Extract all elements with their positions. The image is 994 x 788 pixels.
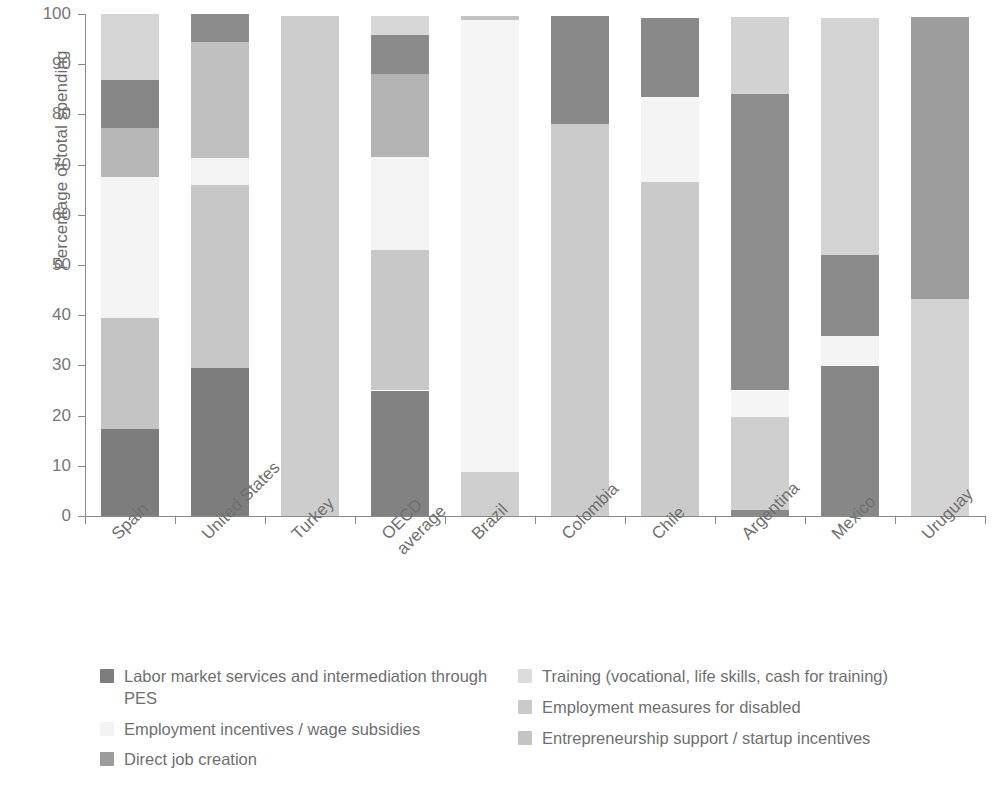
x-tick-2 — [265, 516, 266, 524]
legend-column-right: Training (vocational, life skills, cash … — [518, 666, 988, 758]
y-tick-0 — [78, 516, 85, 517]
bar-segment — [101, 128, 159, 177]
bar-mexico — [821, 14, 879, 516]
bar-colombia — [551, 14, 609, 516]
legend-item[interactable]: Entrepreneurship support / startup incen… — [518, 728, 988, 750]
legend-label: Direct job creation — [124, 749, 257, 771]
y-tick-20 — [78, 416, 85, 417]
y-tick-label-0: 0 — [25, 506, 71, 526]
y-tick-30 — [78, 365, 85, 366]
bar-segment — [731, 391, 789, 417]
bar-segment — [821, 18, 879, 255]
y-tick-label-30: 30 — [25, 355, 71, 375]
y-tick-label-50: 50 — [25, 255, 71, 275]
legend-item[interactable]: Training (vocational, life skills, cash … — [518, 666, 988, 688]
bar-segment — [101, 80, 159, 128]
bar-segment — [101, 318, 159, 429]
bar-segment — [641, 18, 699, 97]
bar-turkey — [281, 14, 339, 516]
y-tick-label-80: 80 — [25, 104, 71, 124]
x-tick-1 — [175, 516, 176, 524]
legend-item[interactable]: Labor market services and intermediation… — [100, 666, 520, 710]
x-tick-7 — [715, 516, 716, 524]
x-tick-6 — [625, 516, 626, 524]
bar-segment — [281, 16, 339, 516]
y-tick-label-40: 40 — [25, 305, 71, 325]
legend-label: Training (vocational, life skills, cash … — [542, 666, 888, 688]
y-tick-100 — [78, 14, 85, 15]
legend-label: Employment measures for disabled — [542, 697, 801, 719]
legend-label: Labor market services and intermediation… — [124, 666, 520, 710]
y-tick-40 — [78, 315, 85, 316]
bar-segment — [191, 185, 249, 368]
bar-segment — [731, 94, 789, 390]
legend-swatch-icon — [518, 669, 532, 683]
legend-label: Employment incentives / wage subsidies — [124, 719, 420, 741]
y-tick-10 — [78, 466, 85, 467]
chart-figure: Percentage of total spending 01020304050… — [0, 0, 994, 788]
bar-chile — [641, 14, 699, 516]
y-tick-70 — [78, 165, 85, 166]
bar-segment — [371, 157, 429, 250]
bar-segment — [551, 16, 609, 125]
bar-argentina — [731, 14, 789, 516]
legend-column-left: Labor market services and intermediation… — [100, 666, 520, 780]
bar-oecd-average — [371, 14, 429, 516]
bar-segment — [821, 336, 879, 366]
y-tick-80 — [78, 114, 85, 115]
legend-swatch-icon — [100, 669, 114, 683]
x-tick-0 — [85, 516, 86, 524]
x-tick-3 — [355, 516, 356, 524]
legend-item[interactable]: Employment incentives / wage subsidies — [100, 719, 520, 741]
legend-swatch-icon — [518, 700, 532, 714]
bar-segment — [641, 182, 699, 516]
legend-label: Entrepreneurship support / startup incen… — [542, 728, 870, 750]
bar-segment — [371, 74, 429, 157]
bar-segment — [371, 35, 429, 74]
y-tick-label-70: 70 — [25, 155, 71, 175]
y-axis-line — [85, 14, 86, 516]
bar-brazil — [461, 14, 519, 516]
legend-swatch-icon — [518, 731, 532, 745]
bar-segment — [191, 14, 249, 42]
y-tick-label-10: 10 — [25, 456, 71, 476]
legend-item[interactable]: Employment measures for disabled — [518, 697, 988, 719]
legend-swatch-icon — [100, 752, 114, 766]
bar-segment — [101, 14, 159, 80]
bar-united-states — [191, 14, 249, 516]
y-tick-60 — [78, 215, 85, 216]
bar-segment — [191, 42, 249, 158]
bar-spain — [101, 14, 159, 516]
y-tick-label-60: 60 — [25, 205, 71, 225]
legend-item[interactable]: Direct job creation — [100, 749, 520, 771]
legend-swatch-icon — [100, 722, 114, 736]
bar-segment — [911, 299, 969, 516]
bar-segment — [731, 17, 789, 94]
bar-segment — [911, 17, 969, 299]
bar-segment — [191, 158, 249, 185]
bar-segment — [641, 97, 699, 182]
bar-segment — [461, 16, 519, 21]
bar-segment — [101, 429, 159, 516]
y-tick-90 — [78, 64, 85, 65]
bar-segment — [551, 124, 609, 516]
y-tick-label-100: 100 — [25, 4, 71, 24]
bar-segment — [821, 366, 879, 516]
x-tick-5 — [535, 516, 536, 524]
bar-segment — [821, 255, 879, 336]
bar-uruguay — [911, 14, 969, 516]
bar-segment — [371, 250, 429, 391]
bar-segment — [101, 177, 159, 318]
x-tick-10 — [985, 516, 986, 524]
y-tick-50 — [78, 265, 85, 266]
bar-segment — [371, 16, 429, 36]
y-tick-label-20: 20 — [25, 406, 71, 426]
bar-segment — [461, 20, 519, 472]
y-tick-label-90: 90 — [25, 54, 71, 74]
x-tick-8 — [805, 516, 806, 524]
x-tick-9 — [895, 516, 896, 524]
plot-area: 0102030405060708090100 — [85, 14, 985, 516]
